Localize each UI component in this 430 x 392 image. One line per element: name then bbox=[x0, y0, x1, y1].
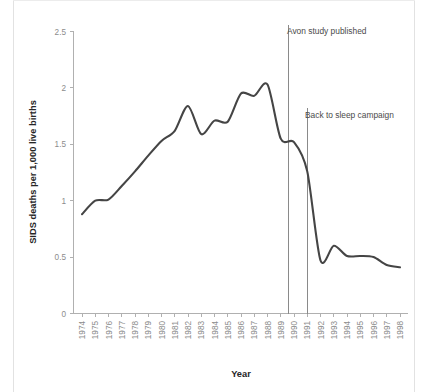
y-axis-title: SIDS deaths per 1,000 live births bbox=[28, 100, 38, 244]
y-axis-ticks bbox=[70, 32, 74, 314]
x-tick-label: 1990 bbox=[290, 321, 299, 340]
x-tick-label: 1986 bbox=[237, 321, 246, 340]
x-tick-label: 1997 bbox=[383, 321, 392, 340]
x-tick-label: 1976 bbox=[105, 321, 114, 340]
x-tick-label: 1983 bbox=[197, 321, 206, 340]
x-axis-ticks: 1974197519761977197819791980198119821983… bbox=[78, 314, 405, 340]
x-tick-label: 1987 bbox=[250, 321, 259, 340]
annotation-back-to-sleep: Back to sleep campaign bbox=[305, 110, 394, 120]
y-tick-label: 2 bbox=[61, 84, 66, 93]
x-tick-label: 1974 bbox=[78, 321, 87, 340]
x-tick-label: 1984 bbox=[211, 321, 220, 340]
x-tick-label: 1996 bbox=[370, 321, 379, 340]
x-tick-label: 1991 bbox=[303, 321, 312, 340]
y-tick-label: 1 bbox=[61, 197, 66, 206]
x-tick-label: 1981 bbox=[171, 321, 180, 340]
x-tick-label: 1994 bbox=[343, 321, 352, 340]
x-tick-label: 1980 bbox=[158, 321, 167, 340]
annotation-avon-study: Avon study published bbox=[287, 26, 367, 36]
x-tick-label: 1979 bbox=[144, 321, 153, 340]
y-tick-label: 0 bbox=[61, 310, 66, 319]
y-tick-label: 2.5 bbox=[55, 28, 67, 37]
x-tick-label: 1995 bbox=[356, 321, 365, 340]
x-tick-label: 1982 bbox=[184, 321, 193, 340]
x-tick-label: 1978 bbox=[131, 321, 140, 340]
chart-figure: 0 0.5 1 1.5 2 2.5 SIDS deaths per 1,000 … bbox=[0, 0, 430, 392]
y-tick-label: 1.5 bbox=[55, 140, 67, 149]
x-tick-label: 1988 bbox=[264, 321, 273, 340]
y-tick-label: 0.5 bbox=[55, 253, 67, 262]
x-tick-label: 1998 bbox=[396, 321, 405, 340]
x-axis-title: Year bbox=[231, 369, 251, 379]
x-tick-label: 1989 bbox=[277, 321, 286, 340]
line-chart: 0 0.5 1 1.5 2 2.5 SIDS deaths per 1,000 … bbox=[0, 0, 430, 392]
x-tick-label: 1992 bbox=[317, 321, 326, 340]
x-tick-label: 1985 bbox=[224, 321, 233, 340]
event-reference-lines bbox=[289, 25, 308, 314]
x-tick-label: 1977 bbox=[118, 321, 127, 340]
y-axis-tick-labels: 0 0.5 1 1.5 2 2.5 bbox=[55, 28, 67, 319]
x-tick-label: 1975 bbox=[91, 321, 100, 340]
x-tick-label: 1993 bbox=[330, 321, 339, 340]
